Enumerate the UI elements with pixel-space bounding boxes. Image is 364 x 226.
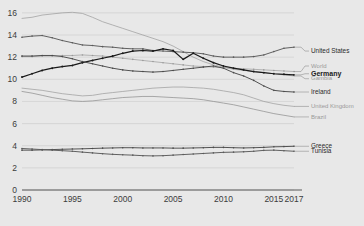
- legend-label-germany[interactable]: Germany: [311, 70, 341, 78]
- y-tick-label: 16: [8, 8, 18, 18]
- series-marker: [273, 70, 275, 72]
- x-tick-label: 2017: [285, 194, 304, 204]
- y-tick-label: 14: [8, 30, 18, 40]
- series-marker: [253, 80, 255, 82]
- series-marker: [142, 48, 144, 50]
- series-marker: [172, 63, 174, 65]
- series-marker: [283, 150, 285, 152]
- series-marker: [203, 153, 205, 155]
- series-marker: [41, 35, 43, 37]
- series-marker: [172, 147, 174, 149]
- series-marker: [192, 52, 194, 54]
- series-marker: [233, 147, 235, 149]
- legend-label-ireland[interactable]: Ireland: [311, 88, 331, 95]
- series-marker: [122, 47, 124, 49]
- line-chart-figure: 0246810121416 19901995200020052010201520…: [0, 0, 364, 226]
- x-tick-label: 1995: [63, 194, 82, 204]
- series-marker: [51, 37, 53, 39]
- y-tick-label: 10: [8, 74, 18, 84]
- series-marker: [212, 62, 214, 64]
- series-marker: [132, 154, 134, 156]
- series-marker: [162, 62, 164, 64]
- series-marker: [213, 152, 215, 154]
- series-marker: [72, 148, 74, 150]
- series-marker: [203, 66, 205, 68]
- legend-label-united-states[interactable]: United States: [311, 47, 349, 54]
- series-marker: [82, 148, 84, 150]
- series-marker: [213, 55, 215, 57]
- series-marker: [243, 69, 245, 71]
- legend-label-tunisia[interactable]: Tunisia: [311, 147, 332, 154]
- series-marker: [253, 69, 255, 71]
- legend-label-world[interactable]: World: [311, 63, 327, 69]
- series-marker: [172, 154, 174, 156]
- y-tick-label: 6: [12, 119, 17, 129]
- series-marker: [203, 147, 205, 149]
- series-marker: [213, 65, 215, 67]
- series-marker: [152, 61, 154, 63]
- series-marker: [102, 55, 104, 57]
- series-marker: [122, 57, 124, 59]
- chart-canvas: 0246810121416 19901995200020052010201520…: [0, 0, 364, 226]
- series-marker: [182, 64, 184, 66]
- series-marker: [72, 58, 74, 60]
- series-marker: [162, 147, 164, 149]
- series-marker: [233, 72, 235, 74]
- series-marker: [152, 71, 154, 73]
- series-marker: [172, 70, 174, 72]
- series-marker: [223, 65, 225, 67]
- series-marker: [152, 155, 154, 157]
- series-marker: [253, 56, 255, 58]
- series-marker: [71, 64, 73, 66]
- series-marker: [72, 55, 74, 57]
- series-marker: [142, 60, 144, 62]
- x-tick-label: 2000: [113, 194, 132, 204]
- legend-label-brazil[interactable]: Brazil: [311, 114, 326, 120]
- series-marker: [152, 147, 154, 149]
- series-marker: [132, 48, 134, 50]
- series-marker: [102, 57, 104, 59]
- series-marker: [92, 60, 94, 62]
- series-marker: [112, 147, 114, 149]
- series-marker: [112, 55, 114, 57]
- series-marker: [162, 71, 164, 73]
- series-marker: [192, 65, 194, 67]
- x-tick-label: 1990: [13, 194, 32, 204]
- series-marker: [112, 46, 114, 48]
- series-marker: [21, 76, 23, 78]
- series-marker: [61, 56, 63, 58]
- series-marker: [142, 71, 144, 73]
- series-marker: [41, 149, 43, 151]
- series-marker: [223, 152, 225, 154]
- x-tick-label: 2005: [164, 194, 183, 204]
- series-marker: [21, 36, 23, 38]
- series-marker: [92, 45, 94, 47]
- series-marker: [31, 55, 33, 57]
- series-marker: [132, 50, 134, 52]
- series-marker: [21, 148, 23, 150]
- series-marker: [182, 147, 184, 149]
- series-marker: [253, 147, 255, 149]
- series-marker: [61, 66, 63, 68]
- series-marker: [102, 147, 104, 149]
- series-marker: [283, 146, 285, 148]
- series-marker: [102, 65, 104, 67]
- series-marker: [82, 61, 84, 63]
- series-marker: [263, 150, 265, 152]
- series-marker: [41, 55, 43, 57]
- series-marker: [31, 35, 33, 37]
- series-marker: [223, 147, 225, 149]
- y-tick-label: 12: [8, 52, 18, 62]
- series-marker: [182, 69, 184, 71]
- x-tick-label: 2015: [264, 194, 283, 204]
- series-marker: [61, 150, 63, 152]
- series-marker: [273, 146, 275, 148]
- series-marker: [72, 42, 74, 44]
- series-marker: [132, 59, 134, 61]
- series-marker: [203, 53, 205, 55]
- series-marker: [253, 150, 255, 152]
- series-marker: [72, 150, 74, 152]
- x-tick-label: 2010: [214, 194, 233, 204]
- series-marker: [122, 154, 124, 156]
- legend-label-united-kingdom[interactable]: United Kingdom: [311, 103, 354, 109]
